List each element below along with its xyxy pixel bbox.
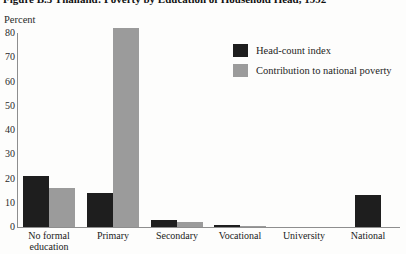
contribution-to-national-poverty-bar-no-formal-education (49, 188, 75, 227)
y-tick-60: 60 (0, 76, 15, 88)
x-label-vocational: Vocational (207, 231, 273, 242)
figure-title-text: Figure B.5 Thailand: Poverty by Educatio… (3, 0, 403, 5)
legend-item-head-count-index: Head-count index (233, 44, 392, 57)
x-label-national: National (335, 231, 401, 242)
legend-label: Contribution to national poverty (256, 65, 392, 76)
head-count-index-bar-primary (87, 193, 113, 227)
figure-canvas: Figure B.5 Thailand: Poverty by Educatio… (0, 0, 406, 254)
bar-group-vocational (214, 225, 266, 227)
bar-group-no-formal-education (23, 176, 75, 227)
y-tick-10: 10 (0, 197, 15, 209)
y-axis-line (17, 33, 18, 227)
y-tick-20: 20 (0, 173, 15, 185)
bar-group-national (355, 195, 381, 227)
y-tick-50: 50 (0, 100, 15, 112)
bar-group-secondary (151, 220, 203, 227)
legend-swatch-icon (233, 64, 248, 77)
contribution-to-national-poverty-bar-vocational (240, 226, 266, 227)
head-count-index-bar-national (355, 195, 381, 227)
legend-swatch-icon (233, 44, 248, 57)
y-tick-30: 30 (0, 148, 15, 160)
y-axis-title: Percent (4, 14, 36, 25)
y-tick-40: 40 (0, 124, 15, 136)
legend: Head-count indexContribution to national… (233, 44, 392, 77)
contribution-to-national-poverty-bar-primary (113, 28, 139, 227)
y-tick-0: 0 (0, 221, 15, 233)
y-tick-80: 80 (0, 27, 15, 39)
x-axis-line (17, 227, 400, 228)
head-count-index-bar-no-formal-education (23, 176, 49, 227)
figure-title: Figure B.5 Thailand: Poverty by Educatio… (3, 0, 403, 7)
head-count-index-bar-vocational (214, 225, 240, 227)
head-count-index-bar-secondary (151, 220, 177, 227)
x-label-no-formal-education: No formal education (16, 231, 82, 252)
y-tick-70: 70 (0, 51, 15, 63)
contribution-to-national-poverty-bar-secondary (177, 222, 203, 227)
x-label-university: University (271, 231, 337, 242)
legend-label: Head-count index (256, 45, 331, 56)
bar-group-primary (87, 28, 139, 227)
legend-item-contribution-to-national-poverty: Contribution to national poverty (233, 64, 392, 77)
x-label-primary: Primary (80, 231, 146, 242)
x-label-secondary: Secondary (144, 231, 210, 242)
